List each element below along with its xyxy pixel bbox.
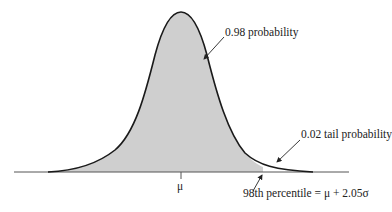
tail-arrow — [277, 140, 300, 162]
mean-label: μ — [177, 180, 183, 192]
body-probability-label: 0.98 probability — [225, 26, 298, 38]
body-arrow — [204, 37, 224, 59]
tail-probability-label: 0.02 tail probability — [301, 128, 392, 140]
percentile-label: 98th percentile = μ + 2.05σ — [243, 187, 369, 199]
